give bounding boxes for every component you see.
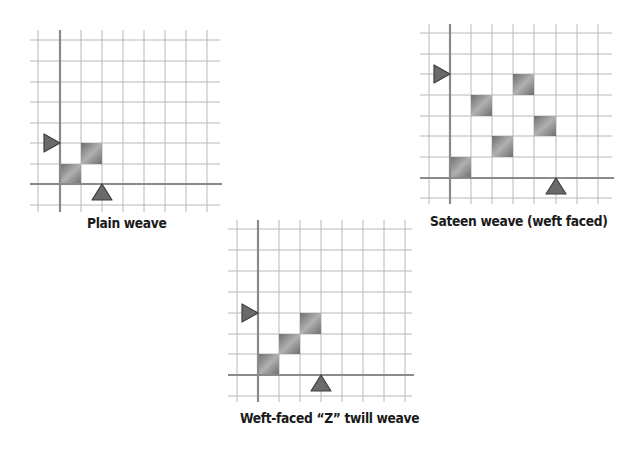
warp-marker-up-triangle-icon	[311, 375, 331, 391]
interlacing-cell	[258, 354, 279, 375]
twill-weave-caption: Weft-faced “Z” twill weave	[240, 410, 419, 426]
sateen-weave-caption: Sateen weave (weft faced)	[430, 213, 607, 229]
interlacing-cell	[300, 313, 321, 334]
plain-weave-caption: Plain weave	[87, 215, 166, 231]
filled-cells	[258, 313, 321, 375]
interlacing-cell	[279, 334, 300, 354]
weft-marker-right-triangle-icon	[242, 304, 258, 322]
